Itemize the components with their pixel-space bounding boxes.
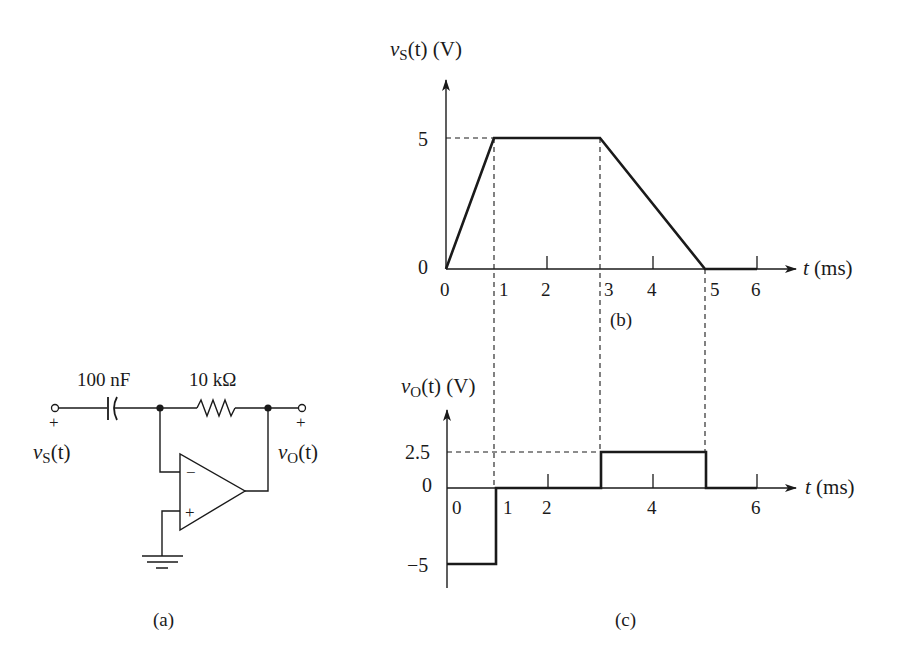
resistor-icon xyxy=(197,400,235,416)
figure-canvas: − + 100 nF 10 kΩ + vS(t) + vO(t) (a) xyxy=(0,0,912,661)
output-voltage-label: vO(t) xyxy=(278,440,318,466)
opamp-plus-sign: + xyxy=(185,503,195,522)
x-tick-label: 5 xyxy=(710,279,720,300)
input-voltage-label: vS(t) xyxy=(33,440,71,466)
x-tick-label: 6 xyxy=(751,497,761,518)
x-tick-label: 6 xyxy=(751,279,761,300)
x-axis-label: t (ms) xyxy=(805,475,855,499)
y-axis-label: vO(t) (V) xyxy=(401,374,475,400)
resistor-label: 10 kΩ xyxy=(189,369,236,390)
output-plus-sign: + xyxy=(296,413,306,432)
y-axis-label: vS(t) (V) xyxy=(390,37,462,63)
x-axis-ticks xyxy=(548,474,757,488)
input-plus-sign: + xyxy=(49,413,59,432)
vs-waveform xyxy=(446,138,757,269)
opamp-minus-sign: − xyxy=(186,463,196,482)
y-tick-label: 2.5 xyxy=(405,441,430,463)
capacitor-label: 100 nF xyxy=(77,369,130,390)
ground-icon xyxy=(142,556,183,568)
vo-waveform xyxy=(447,452,757,564)
x-tick-label: 0 xyxy=(440,279,450,300)
x-tick-label: 2 xyxy=(542,497,552,518)
output-terminal-icon xyxy=(299,405,306,412)
input-terminal-icon xyxy=(52,405,59,412)
input-waveform-plot: vS(t) (V) 5 0 0 1 2 3 4 5 6 t (ms) (b) xyxy=(390,37,853,331)
y-tick-label: 0 xyxy=(422,474,432,496)
alignment-guides xyxy=(494,138,705,486)
y-tick-label: 5 xyxy=(418,128,428,150)
y-tick-label: −5 xyxy=(407,554,428,576)
y-tick-label: 0 xyxy=(418,256,428,278)
x-tick-label: 1 xyxy=(499,279,509,300)
x-tick-label: 4 xyxy=(647,497,657,518)
x-tick-label: 0 xyxy=(452,497,462,518)
x-tick-label: 4 xyxy=(647,279,657,300)
x-tick-label: 2 xyxy=(541,279,551,300)
output-waveform-plot: vO(t) (V) 2.5 0 −5 0 1 2 4 6 t (ms) (c) xyxy=(401,374,855,631)
circuit-diagram: − + 100 nF 10 kΩ + vS(t) + vO(t) (a) xyxy=(33,369,318,631)
x-tick-label: 1 xyxy=(503,497,513,518)
x-axis-label: t (ms) xyxy=(803,256,853,280)
plot-b-caption: (b) xyxy=(610,309,632,331)
x-tick-label: 3 xyxy=(604,279,614,300)
x-axis-ticks xyxy=(547,256,757,269)
circuit-caption: (a) xyxy=(153,609,174,631)
plot-c-caption: (c) xyxy=(615,609,636,631)
